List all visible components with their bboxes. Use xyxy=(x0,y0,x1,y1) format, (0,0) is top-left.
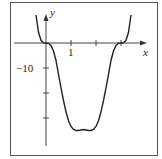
y-tick-label-neg10: −10 xyxy=(16,62,34,74)
x-tick-label-1: 1 xyxy=(68,46,74,58)
chart: x y 1 −10 xyxy=(0,0,162,159)
x-axis-label: x xyxy=(142,46,148,58)
y-axis-label: y xyxy=(49,6,55,18)
chart-frame xyxy=(11,3,158,156)
